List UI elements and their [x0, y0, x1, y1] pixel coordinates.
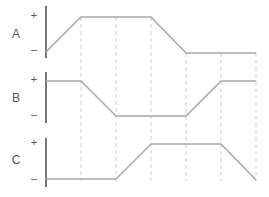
signal-c: C+–	[12, 136, 256, 187]
minus-label: –	[31, 108, 38, 120]
signals: A+–B+–C+–	[12, 6, 256, 187]
plus-label: +	[31, 136, 37, 148]
minus-label: –	[31, 172, 38, 184]
timing-diagram: A+–B+–C+–	[0, 0, 269, 197]
signal-name-label: B	[12, 91, 20, 105]
signal-name-label: A	[12, 27, 20, 41]
signal-b: B+–	[12, 72, 256, 123]
plus-label: +	[31, 73, 37, 85]
minus-label: –	[31, 43, 38, 55]
time-marker-grid	[81, 17, 256, 181]
signal-name-label: C	[12, 153, 21, 167]
plus-label: +	[31, 9, 37, 21]
signal-a: A+–	[12, 6, 256, 58]
